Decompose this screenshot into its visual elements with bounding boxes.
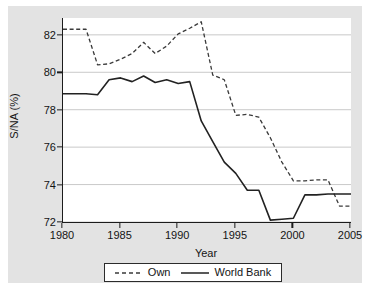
gridlines [63,35,351,222]
y-axis-tick-mark [57,184,62,185]
x-axis-tick-label: 1995 [223,230,247,241]
chart-screenshot: 727476788082 198019851990199520002005 Ye… [0,0,370,298]
y-axis-tick-marks [56,18,62,222]
y-axis-tick-label: 74 [44,179,56,190]
x-axis-tick-mark [292,223,293,228]
legend-item-own: Own [115,267,171,278]
x-axis-tick-mark [61,223,62,228]
x-axis-tick-mark [119,223,120,228]
series-line-own [63,22,351,206]
x-axis-title: Year [62,247,350,259]
legend-item-world-bank: World Bank [181,267,271,278]
x-axis-tick-mark [177,223,178,228]
x-axis-tick-label: 2000 [280,230,304,241]
x-axis-tick-label: 1990 [165,230,189,241]
y-axis-tick-mark [57,109,62,110]
x-axis-tick-label: 2005 [338,230,362,241]
x-axis-tick-mark [349,223,350,228]
y-axis-tick-label: 80 [44,67,56,78]
plot-area [62,18,351,223]
x-axis-tick-label: 1980 [50,230,74,241]
y-axis-tick-label: 76 [44,142,56,153]
x-axis-tick-labels: 198019851990199520002005 [62,230,350,246]
y-axis-tick-label: 82 [44,29,56,40]
y-axis-tick-label: 72 [44,217,56,228]
x-axis-tick-label: 1985 [107,230,131,241]
y-axis-tick-mark [57,72,62,73]
legend-label-world-bank: World Bank [214,267,271,278]
y-axis-tick-labels: 727476788082 [24,18,56,222]
legend: Own World Bank [104,263,282,282]
y-axis-tick-mark [57,146,62,147]
y-axis-tick-mark [57,34,62,35]
x-axis-tick-marks [62,223,350,229]
legend-swatch-dashed [115,268,143,278]
y-axis-tick-label: 78 [44,104,56,115]
y-axis-title: S/NA (%) [8,71,20,161]
series-line-world-bank [63,76,351,220]
x-axis-tick-mark [234,223,235,228]
series-lines [63,22,351,220]
plot-svg [63,18,351,222]
legend-label-own: Own [148,267,171,278]
legend-swatch-solid [181,268,209,278]
